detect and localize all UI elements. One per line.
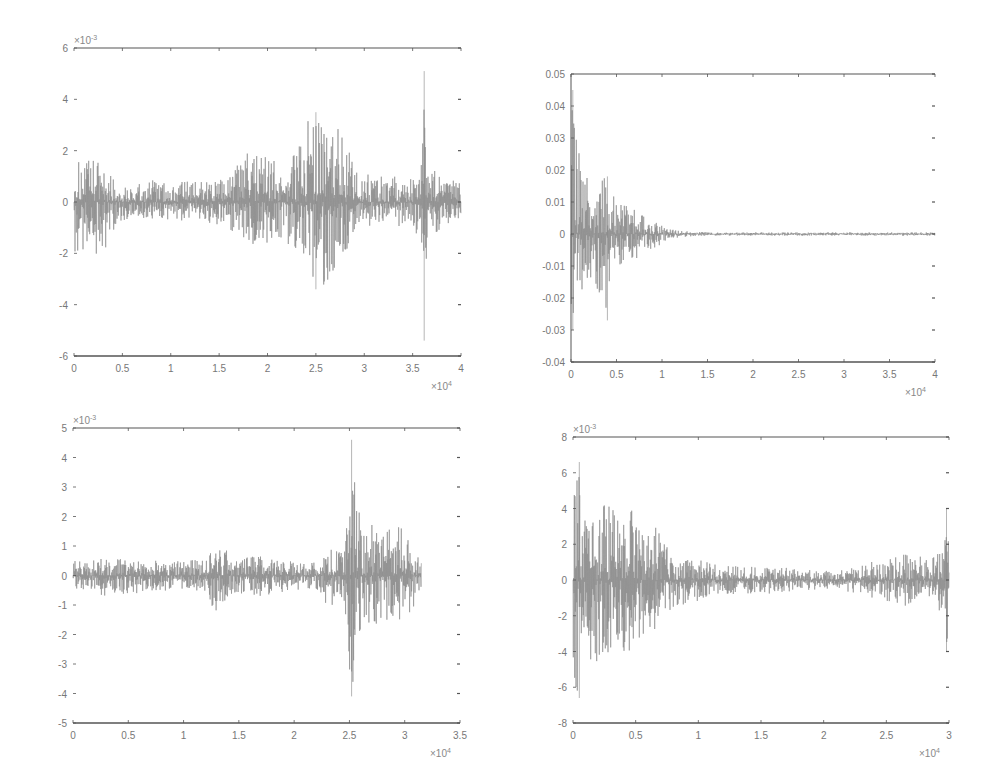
y-tick-label: -2 xyxy=(531,610,567,621)
y-tick-label: 1 xyxy=(31,541,67,552)
x-axis-multiplier: ×104 xyxy=(919,747,940,759)
x-tick-label: 3 xyxy=(946,730,952,741)
signal-trace xyxy=(73,440,421,697)
x-tick-label: 1 xyxy=(659,369,665,380)
x-tick-label: 0.5 xyxy=(610,369,624,380)
y-tick-label: 6 xyxy=(32,43,68,54)
x-tick-label: 0 xyxy=(570,730,576,741)
signal-trace xyxy=(571,90,935,330)
y-tick-label: 0 xyxy=(529,229,565,240)
y-tick-label: -2 xyxy=(31,629,67,640)
x-tick-label: 0.5 xyxy=(629,730,643,741)
y-tick-label: 4 xyxy=(531,503,567,514)
y-tick-label: 4 xyxy=(32,94,68,105)
y-tick-label: 0.05 xyxy=(529,69,565,80)
plot-area xyxy=(573,437,949,723)
y-tick-label: 0 xyxy=(32,197,68,208)
y-tick-label: -4 xyxy=(531,646,567,657)
x-tick-label: 3.5 xyxy=(453,730,467,741)
x-tick-label: 2.5 xyxy=(792,369,806,380)
y-tick-label: 0 xyxy=(531,575,567,586)
x-tick-label: 0 xyxy=(71,363,77,374)
y-tick-label: 0.04 xyxy=(529,101,565,112)
y-tick-label: 0 xyxy=(31,570,67,581)
y-tick-label: 0.03 xyxy=(529,133,565,144)
y-tick-label: -8 xyxy=(531,718,567,729)
x-tick-label: 1 xyxy=(696,730,702,741)
x-tick-label: 1 xyxy=(181,730,187,741)
y-tick-label: -1 xyxy=(31,600,67,611)
x-tick-label: 3 xyxy=(361,363,367,374)
x-tick-label: 1 xyxy=(168,363,174,374)
y-axis-multiplier: ×10-3 xyxy=(573,423,596,435)
x-tick-label: 2.5 xyxy=(342,730,356,741)
x-tick-label: 2 xyxy=(265,363,271,374)
x-tick-label: 2 xyxy=(291,730,297,741)
y-tick-label: -2 xyxy=(32,248,68,259)
x-tick-label: 2.5 xyxy=(879,730,893,741)
y-tick-label: -0.01 xyxy=(529,261,565,272)
y-tick-label: -4 xyxy=(32,299,68,310)
y-tick-label: 4 xyxy=(31,452,67,463)
x-tick-label: 0.5 xyxy=(121,730,135,741)
y-tick-label: 0.02 xyxy=(529,165,565,176)
y-tick-label: -3 xyxy=(31,659,67,670)
y-tick-label: -0.02 xyxy=(529,293,565,304)
x-tick-label: 2 xyxy=(821,730,827,741)
y-tick-label: 2 xyxy=(31,511,67,522)
y-axis-multiplier: ×10-3 xyxy=(74,34,97,46)
y-tick-label: 2 xyxy=(531,539,567,550)
x-tick-label: 4 xyxy=(932,369,938,380)
x-tick-label: 1.5 xyxy=(232,730,246,741)
x-tick-label: 0 xyxy=(568,369,574,380)
signal-trace xyxy=(573,462,949,698)
y-tick-label: -6 xyxy=(531,682,567,693)
y-tick-label: -5 xyxy=(31,718,67,729)
x-tick-label: 3.5 xyxy=(883,369,897,380)
x-tick-label: 4 xyxy=(458,363,464,374)
x-axis-multiplier: ×104 xyxy=(905,386,926,398)
subplot-bottom-left: 543210-1-2-3-4-500.511.522.533.5×10-3×10… xyxy=(73,428,460,723)
plot-area xyxy=(571,74,935,362)
y-tick-label: 6 xyxy=(531,467,567,478)
x-tick-label: 0 xyxy=(70,730,76,741)
x-tick-label: 3.5 xyxy=(406,363,420,374)
x-tick-label: 3 xyxy=(402,730,408,741)
x-tick-label: 2 xyxy=(750,369,756,380)
x-tick-label: 1.5 xyxy=(212,363,226,374)
y-tick-label: 8 xyxy=(531,432,567,443)
subplot-top-right: 0.050.040.030.020.010-0.01-0.02-0.03-0.0… xyxy=(571,74,935,362)
x-axis-multiplier: ×104 xyxy=(430,747,451,759)
x-tick-label: 1.5 xyxy=(701,369,715,380)
x-axis-multiplier: ×104 xyxy=(431,380,452,392)
y-tick-label: 2 xyxy=(32,145,68,156)
y-tick-label: 3 xyxy=(31,482,67,493)
x-tick-label: 2.5 xyxy=(309,363,323,374)
x-tick-label: 1.5 xyxy=(754,730,768,741)
y-axis-multiplier: ×10-3 xyxy=(73,414,96,426)
subplot-bottom-right: 86420-2-4-6-800.511.522.53×10-3×104 xyxy=(573,437,949,723)
y-tick-label: -0.03 xyxy=(529,325,565,336)
x-tick-label: 3 xyxy=(841,369,847,380)
y-tick-label: 0.01 xyxy=(529,197,565,208)
subplot-top-left: 6420-2-4-600.511.522.533.54×10-3×104 xyxy=(74,48,461,356)
plot-area xyxy=(73,428,460,723)
y-tick-label: -0.04 xyxy=(529,357,565,368)
y-tick-label: 5 xyxy=(31,423,67,434)
signal-trace xyxy=(74,71,461,341)
x-tick-label: 0.5 xyxy=(115,363,129,374)
y-tick-label: -4 xyxy=(31,688,67,699)
y-tick-label: -6 xyxy=(32,351,68,362)
plot-area xyxy=(74,48,461,356)
